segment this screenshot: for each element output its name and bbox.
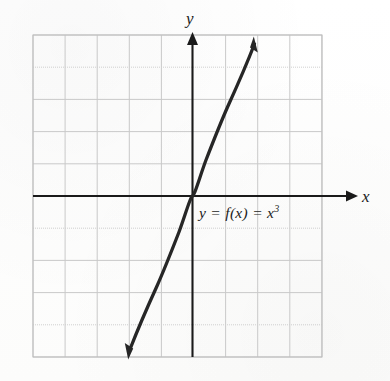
curve-equation-label: y = f(x) = x3 — [199, 203, 280, 222]
cubic-curve — [125, 37, 258, 360]
y-axis-arrowhead — [187, 32, 198, 45]
equation-base: y = f(x) = x — [199, 204, 274, 221]
y-axis-label: y — [186, 10, 194, 27]
cubic-function-plot — [0, 0, 390, 381]
x-axis-arrowhead — [346, 191, 358, 202]
x-axis-label: x — [362, 188, 370, 205]
equation-exponent: 3 — [274, 203, 279, 214]
graph-figure: y x y = f(x) = x3 — [0, 0, 390, 381]
